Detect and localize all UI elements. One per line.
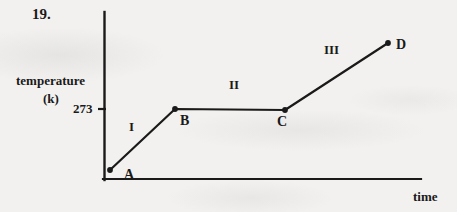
heating-curve-line — [110, 43, 388, 170]
point-label-a: A — [124, 168, 134, 182]
data-point-a — [107, 167, 113, 173]
y-axis-title: temperature — [16, 74, 85, 87]
segment-label-two: II — [229, 78, 239, 91]
data-point-b — [172, 106, 178, 112]
x-axis-title: time — [413, 190, 438, 203]
question-number: 19. — [32, 7, 51, 22]
segment-label-one: I — [129, 120, 134, 133]
y-axis-unit: (k) — [43, 92, 59, 105]
point-label-d: D — [396, 38, 406, 52]
heating-curve-plot — [0, 0, 457, 212]
segment-label-three: III — [324, 43, 339, 56]
data-point-d — [385, 40, 391, 46]
y-axis-tick-label-273: 273 — [73, 102, 93, 115]
point-label-c: C — [277, 115, 287, 129]
point-label-b: B — [180, 114, 189, 128]
data-point-c — [282, 107, 288, 113]
figure-canvas: 19. temperature (k) 273 time A B C D I I… — [0, 0, 457, 212]
